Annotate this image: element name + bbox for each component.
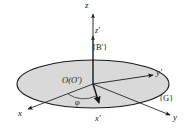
label-z-prime-axis: z' [95,27,100,35]
label-rotation-angle: φ [75,98,80,107]
label-x-axis: x [18,109,22,118]
label-ground-frame: {G} [159,94,173,103]
label-origin: O(O') [62,76,82,85]
label-body-frame: {B'} [92,43,107,52]
diagram-figure: z z' {B'} O(O') y' {G} y x x' φ [0,0,186,128]
label-z-axis: z [85,1,89,10]
diagram-canvas [0,0,186,128]
label-y-prime-axis: y' [156,68,162,77]
label-y-axis: y [173,113,177,122]
label-x-prime-axis: x' [95,114,101,123]
